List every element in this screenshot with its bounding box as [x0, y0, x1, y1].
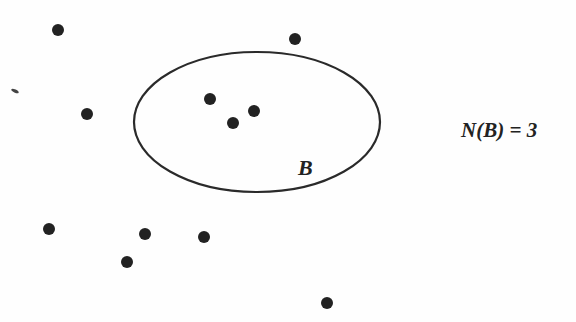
- point-outside: [81, 108, 93, 120]
- point-inside: [204, 93, 216, 105]
- point-inside: [248, 105, 260, 117]
- point-outside: [43, 223, 55, 235]
- set-b-label: B: [298, 155, 313, 181]
- point-inside: [227, 117, 239, 129]
- stray-mark: [11, 88, 20, 94]
- set-diagram: [0, 0, 576, 322]
- count-equation: N(B) = 3: [461, 118, 537, 143]
- points-group: [43, 24, 333, 309]
- point-outside: [139, 228, 151, 240]
- diagram-canvas: B N(B) = 3: [0, 0, 576, 322]
- point-outside: [321, 297, 333, 309]
- point-outside: [121, 256, 133, 268]
- point-outside: [198, 231, 210, 243]
- point-outside: [289, 33, 301, 45]
- set-b-ellipse: [134, 52, 380, 192]
- point-outside: [52, 24, 64, 36]
